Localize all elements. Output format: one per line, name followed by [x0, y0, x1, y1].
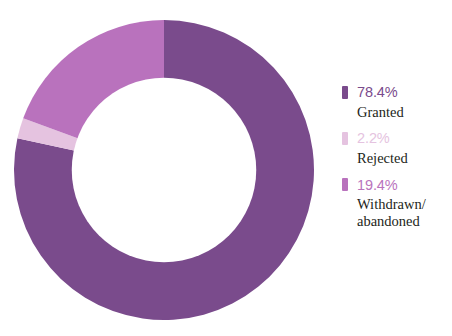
legend-value-withdrawn: 19.4% — [357, 178, 398, 193]
donut-chart-graphic — [0, 0, 330, 336]
legend-head-withdrawn: 19.4% — [342, 176, 452, 193]
chart-legend: 78.4% Granted 2.2% Rejected 19.4% Withdr… — [342, 84, 452, 239]
donut-chart-figure: 78.4% Granted 2.2% Rejected 19.4% Withdr… — [0, 0, 452, 336]
legend-swatch-withdrawn-icon — [342, 178, 348, 191]
legend-head-granted: 78.4% — [342, 84, 452, 101]
legend-item-rejected: 2.2% Rejected — [342, 130, 452, 166]
legend-item-granted: 78.4% Granted — [342, 84, 452, 120]
legend-value-granted: 78.4% — [357, 85, 398, 100]
legend-swatch-granted-icon — [342, 86, 348, 99]
legend-head-rejected: 2.2% — [342, 130, 452, 147]
legend-label-rejected: Rejected — [357, 150, 452, 166]
donut-center-hole — [72, 78, 257, 263]
donut-svg — [0, 0, 330, 336]
legend-label-granted: Granted — [357, 104, 452, 120]
legend-swatch-rejected-icon — [342, 132, 348, 145]
legend-item-withdrawn: 19.4% Withdrawn/ abandoned — [342, 176, 452, 228]
legend-label-withdrawn: Withdrawn/ abandoned — [357, 196, 452, 228]
legend-value-rejected: 2.2% — [357, 131, 390, 146]
